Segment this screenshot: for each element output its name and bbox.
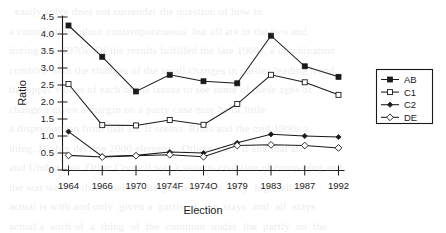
legend-label: C1 <box>404 87 416 98</box>
series-layer <box>65 23 342 160</box>
data-point-marker-c1 <box>134 123 139 128</box>
data-point-marker-c1 <box>336 92 341 97</box>
data-point-marker-ab <box>100 54 105 59</box>
chart-figure: easily solve does not surrender the ques… <box>0 0 446 233</box>
data-point-marker-ab <box>235 81 240 86</box>
x-tick-label: 1983 <box>260 180 281 191</box>
data-point-marker-de <box>200 153 207 160</box>
y-tick-labels: 00.51.01.52.02.53.03.54.04.5 <box>41 11 54 175</box>
y-tick-label: 0.5 <box>41 147 54 158</box>
data-point-marker-ab <box>336 74 341 79</box>
data-point-marker-c2 <box>268 132 273 137</box>
data-point-marker-de <box>335 145 342 152</box>
data-point-marker-c1 <box>167 118 172 123</box>
x-axis-title: Election <box>183 204 222 216</box>
x-tick-label: 1974F <box>156 180 183 191</box>
chart-legend: ABC1C2DE <box>377 70 433 124</box>
legend-label: C2 <box>404 99 416 110</box>
data-point-marker-c1 <box>66 81 71 86</box>
data-point-marker-de <box>301 142 308 149</box>
data-point-marker-ab <box>302 64 307 69</box>
y-tick-label: 3.0 <box>41 62 54 73</box>
data-point-marker-c2 <box>302 133 307 138</box>
x-tick-label: 1992 <box>328 180 349 191</box>
y-axis: 00.51.01.52.02.53.03.54.04.5 Ratio <box>16 11 68 175</box>
x-tick-labels: 1964196619701974F1974O1979198319871992 <box>58 180 349 191</box>
y-tick-label: 4.0 <box>41 28 54 39</box>
data-point-marker-c1 <box>235 102 240 107</box>
data-point-marker-ab <box>269 33 274 38</box>
x-tick-label: 1974O <box>189 180 218 191</box>
legend-label: AB <box>404 74 417 85</box>
x-tick-label: 1987 <box>294 180 315 191</box>
y-tick-label: 2.0 <box>41 96 54 107</box>
data-point-marker-de <box>268 141 275 148</box>
data-point-marker-ab <box>167 72 172 77</box>
x-axis: 1964196619701974F1974O1979198319871992 E… <box>58 166 349 217</box>
data-point-marker-ab <box>66 23 71 28</box>
data-point-marker-legend-ab <box>388 77 393 82</box>
data-point-marker-ab <box>201 79 206 84</box>
line-chart-svg: 00.51.01.52.02.53.03.54.04.5 Ratio 19641… <box>0 0 446 233</box>
data-point-marker-legend-c1 <box>388 90 393 95</box>
y-tick-label: 2.5 <box>41 79 54 90</box>
data-point-marker-c1 <box>302 80 307 85</box>
data-point-marker-de <box>133 152 140 159</box>
data-point-marker-c2 <box>336 134 341 139</box>
x-tick-label: 1970 <box>125 180 146 191</box>
y-tick-label: 3.5 <box>41 45 54 56</box>
data-point-marker-ab <box>134 89 139 94</box>
x-tick-label: 1979 <box>227 180 248 191</box>
y-tick-label: 4.5 <box>41 11 54 22</box>
y-tick-label: 0 <box>49 164 54 175</box>
x-tick-label: 1966 <box>92 180 113 191</box>
y-tick-label: 1.5 <box>41 113 54 124</box>
y-tick-label: 1.0 <box>41 130 54 141</box>
legend-label: DE <box>404 112 417 123</box>
y-axis-title: Ratio <box>16 80 28 106</box>
data-point-marker-c1 <box>100 123 105 128</box>
data-point-marker-c1 <box>201 122 206 127</box>
x-tick-label: 1964 <box>58 180 79 191</box>
data-point-marker-c1 <box>269 72 274 77</box>
series-ab <box>66 23 341 94</box>
